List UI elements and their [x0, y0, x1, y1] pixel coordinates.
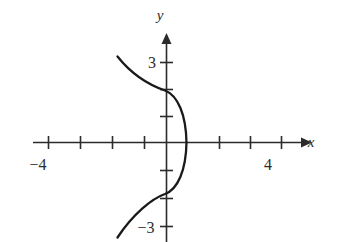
y-axis-group — [160, 33, 173, 242]
y-tick-label--3: −3 — [137, 219, 154, 236]
y-axis-arrow-icon — [162, 33, 172, 44]
y-tick-label-3: 3 — [148, 54, 156, 71]
x-axis-label: x — [307, 134, 315, 150]
graph-figure: x y −4 4 3 −3 — [0, 0, 343, 242]
coordinate-plane: x y −4 4 3 −3 — [0, 0, 343, 242]
x-tick-label--4: −4 — [29, 156, 46, 173]
parabola-curve — [118, 57, 187, 238]
x-tick-label-4: 4 — [264, 156, 272, 173]
x-axis-group — [33, 136, 312, 149]
y-axis-label: y — [155, 7, 164, 23]
